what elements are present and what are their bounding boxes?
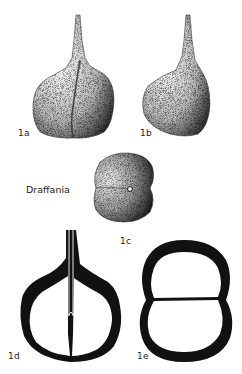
panel-label-1c: 1c — [120, 237, 131, 246]
specimen-1c-drawing — [94, 153, 154, 222]
specimen-1e-section — [140, 240, 233, 362]
panel-label-1e: 1e — [137, 352, 149, 361]
specimen-1b-drawing — [143, 15, 210, 136]
specimen-1a-drawing — [33, 15, 114, 138]
figure-plate: 1a 1b Draffania 1c 1d 1e — [0, 0, 242, 374]
specimen-1d-section — [20, 228, 121, 362]
panel-label-1b: 1b — [140, 129, 152, 138]
panel-label-1d: 1d — [8, 352, 20, 361]
genus-label: Draffania — [26, 185, 70, 195]
panel-label-1a: 1a — [18, 129, 30, 138]
